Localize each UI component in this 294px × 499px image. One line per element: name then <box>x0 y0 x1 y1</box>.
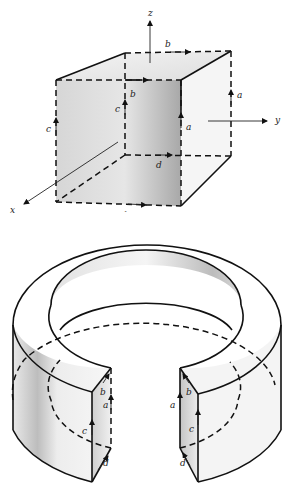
label-b-top: b <box>165 39 171 49</box>
ring-right-label-b: b <box>186 387 192 397</box>
ring-right-label-d: d <box>180 458 186 468</box>
label-c-left: c <box>46 124 51 134</box>
ring-right-label-c: c <box>189 424 194 434</box>
x-axis-label: x <box>10 205 15 215</box>
label-a-back: a <box>237 90 242 100</box>
label-c-back: c <box>115 104 120 114</box>
ring-left-label-c: c <box>82 426 87 436</box>
ring-left-label-d: d <box>103 458 109 468</box>
label-b-front: b <box>130 89 136 99</box>
diagram-canvas: b b c c a a d d z y x <box>0 0 294 499</box>
ring-inner-wall-bottom-edge <box>60 303 232 330</box>
split-ring-figure: b a c d b a c d <box>12 211 282 482</box>
ring-left-label-b: b <box>100 387 106 397</box>
label-d-back: d <box>156 160 162 170</box>
z-axis-label: z <box>147 8 153 18</box>
cube-hidden-edge-bottom-back <box>125 155 231 156</box>
label-a-front: a <box>186 122 191 132</box>
ring-right-label-a: a <box>170 400 175 410</box>
cube-figure: b b c c a a d d z y x <box>10 8 281 220</box>
y-axis-label: y <box>274 115 281 125</box>
ring-left-label-a: a <box>103 400 108 410</box>
ring-top-surface <box>12 211 280 368</box>
cube-front-face <box>56 80 181 206</box>
